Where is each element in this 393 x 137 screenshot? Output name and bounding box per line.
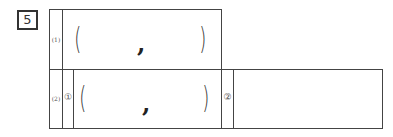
row2-marker1-divider (73, 69, 74, 129)
row1-right-border (221, 9, 222, 129)
row2-right-border (382, 69, 383, 129)
table-left-border (49, 9, 50, 129)
row-label: (2) (50, 95, 62, 102)
answer-field-2-2[interactable] (234, 70, 382, 128)
row-label: (1) (50, 36, 62, 43)
comma-separator: , (137, 34, 145, 54)
label-column-divider (62, 9, 63, 129)
close-paren: ) (202, 83, 209, 113)
table-bottom-border (49, 128, 383, 129)
part-marker-2: ② (222, 92, 233, 102)
table-top-border (49, 9, 222, 10)
comma-separator: , (142, 94, 150, 114)
open-paren: ( (74, 24, 81, 54)
open-paren: ( (79, 83, 86, 113)
close-paren: ) (199, 24, 206, 54)
part-marker-1: ① (63, 92, 73, 102)
question-number-box: 5 (17, 10, 38, 30)
